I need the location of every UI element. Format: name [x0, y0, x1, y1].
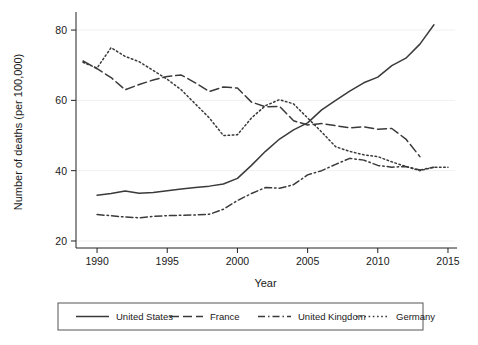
axes	[76, 12, 457, 248]
legend-label-united-kingdom: United Kingdom	[298, 311, 366, 322]
line-chart-figure: 20406080 199019952000200520102015 Number…	[0, 0, 478, 345]
legend-label-united-states: United States	[116, 311, 173, 322]
y-axis-ticks: 20406080	[55, 24, 76, 247]
y-tick-label: 40	[55, 165, 67, 177]
x-tick-label: 2010	[366, 255, 390, 267]
data-series-group	[83, 25, 448, 218]
chart-legend: United StatesFranceUnited KingdomGermany	[58, 303, 435, 330]
y-axis-title: Number of deaths (per 100,000)	[12, 54, 24, 211]
x-tick-label: 1990	[85, 255, 109, 267]
legend-label-france: France	[210, 311, 240, 322]
x-tick-label: 2015	[436, 255, 460, 267]
series-line-france	[83, 61, 420, 157]
x-axis-title: Year	[254, 277, 277, 289]
x-tick-label: 2000	[226, 255, 250, 267]
y-tick-label: 60	[55, 94, 67, 106]
legend-label-germany: Germany	[396, 311, 435, 322]
x-axis-ticks: 199019952000200520102015	[85, 248, 459, 267]
x-tick-label: 1995	[156, 255, 180, 267]
y-tick-label: 20	[55, 235, 67, 247]
x-tick-label: 2005	[296, 255, 320, 267]
series-line-united-states	[97, 25, 434, 195]
legend-border	[58, 303, 423, 330]
series-line-united-kingdom	[97, 158, 434, 217]
y-tick-label: 80	[55, 24, 67, 36]
